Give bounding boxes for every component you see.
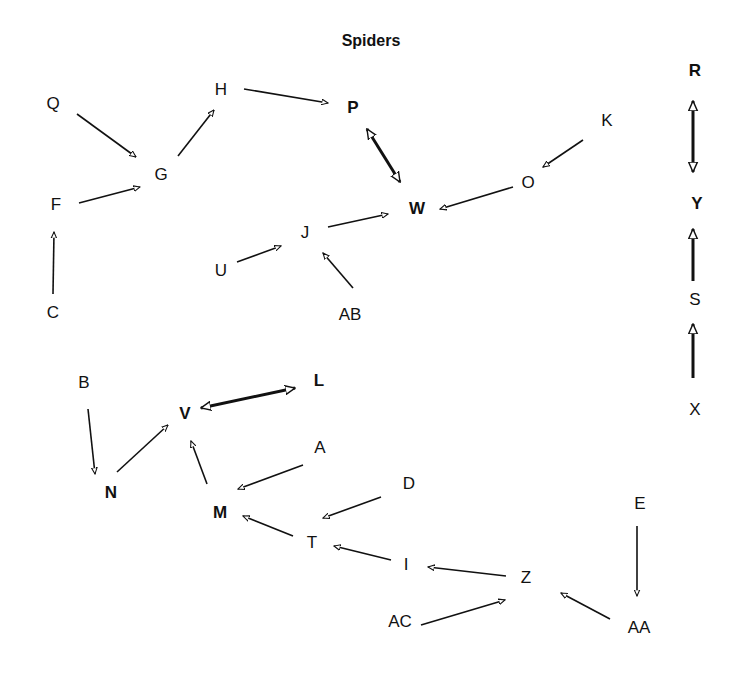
edge-k-to-o-arrow-icon	[543, 140, 583, 167]
node-c: C	[47, 303, 59, 322]
edge-g-to-h-arrow-icon	[178, 110, 214, 156]
spiders-graph: Spiders QHPKRGOFWYJUCABSBLVXANDEMTIZACAA	[0, 0, 742, 677]
node-k: K	[601, 111, 613, 130]
edge-ab-to-j-arrow-icon	[323, 253, 353, 288]
edge-a-to-m-arrow-icon	[238, 465, 303, 489]
node-f: F	[51, 195, 61, 214]
edge-v-to-l-arrow-icon	[201, 388, 295, 408]
edge-z-to-i-arrow-icon	[428, 567, 506, 576]
edge-c-to-f-arrow-icon	[53, 232, 54, 294]
edge-q-to-g-arrow-icon	[77, 114, 136, 157]
edge-f-to-g-arrow-icon	[79, 187, 140, 203]
node-b: B	[78, 373, 89, 392]
diagram-title: Spiders	[342, 32, 401, 49]
node-ac: AC	[388, 612, 412, 631]
node-i: I	[404, 555, 409, 574]
edge-o-to-w-arrow-icon	[440, 187, 513, 209]
node-l: L	[314, 371, 324, 390]
node-v: V	[179, 404, 191, 423]
nodes-layer: QHPKRGOFWYJUCABSBLVXANDEMTIZACAA	[46, 61, 703, 637]
edge-p-to-w-arrow-icon	[367, 129, 400, 182]
node-w: W	[409, 199, 426, 218]
edge-m-to-v-arrow-icon	[191, 441, 207, 484]
edge-h-to-p-arrow-icon	[244, 89, 328, 103]
node-a: A	[314, 438, 326, 457]
node-h: H	[215, 80, 227, 99]
edges-layer	[53, 89, 693, 625]
node-x: X	[689, 400, 700, 419]
node-g: G	[154, 165, 167, 184]
edge-b-to-n-arrow-icon	[88, 409, 95, 474]
node-ab: AB	[339, 305, 362, 324]
edge-j-to-w-arrow-icon	[328, 214, 388, 227]
node-j: J	[301, 223, 310, 242]
node-aa: AA	[628, 618, 651, 637]
edge-ac-to-z-arrow-icon	[421, 600, 505, 625]
node-t: T	[307, 533, 317, 552]
node-u: U	[215, 261, 227, 280]
node-s: S	[689, 290, 700, 309]
node-r: R	[689, 61, 701, 80]
node-n: N	[105, 483, 117, 502]
node-m: M	[213, 503, 227, 522]
node-z: Z	[521, 568, 531, 587]
node-y: Y	[691, 194, 703, 213]
edge-t-to-m-arrow-icon	[243, 516, 293, 536]
node-q: Q	[46, 94, 59, 113]
edge-u-to-j-arrow-icon	[237, 246, 281, 262]
edge-aa-to-z-arrow-icon	[561, 593, 610, 619]
node-p: P	[347, 98, 358, 117]
edge-d-to-t-arrow-icon	[323, 497, 381, 518]
edge-n-to-v-arrow-icon	[117, 425, 168, 472]
node-d: D	[403, 474, 415, 493]
node-e: E	[634, 494, 645, 513]
edge-i-to-t-arrow-icon	[334, 546, 391, 560]
node-o: O	[521, 173, 534, 192]
